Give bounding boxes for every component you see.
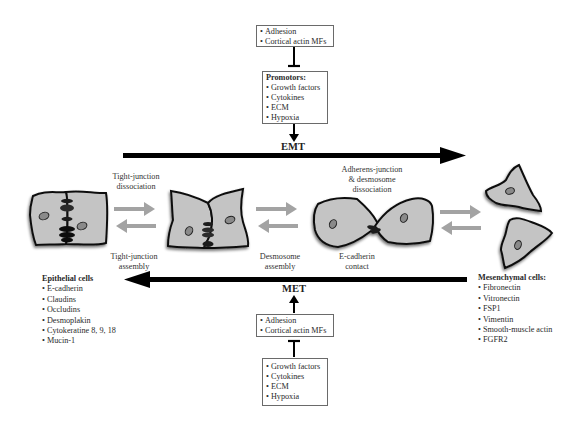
e-cadherin-contact-label: E-cadherin contact xyxy=(327,252,387,272)
bottom-adhesion-box: Adhesion Cortical actin MFs xyxy=(256,314,334,337)
epithelial-marker: Desmoplakin xyxy=(42,316,116,326)
epithelial-marker: Mucin-1 xyxy=(42,336,116,346)
mesenchymal-marker: Vitronectin xyxy=(478,294,552,304)
bottom-adhesion-item: Cortical actin MFs xyxy=(260,326,330,336)
top-inhibitor-box: Adhesion Cortical actin MFs xyxy=(256,25,334,47)
promotor-item: Cytokines xyxy=(266,93,324,103)
bottom-factor-item: Cytokines xyxy=(266,372,324,382)
adherens-junction-dissociation-label: Adherens-junction & desmosome dissociati… xyxy=(332,165,412,195)
arrow-up-icon xyxy=(289,295,299,313)
met-label: MET xyxy=(282,283,306,294)
mesenchymal-cells xyxy=(486,165,552,268)
mesenchymal-marker: Smooth-muscle actin xyxy=(478,325,552,335)
mesenchymal-marker: FSP1 xyxy=(478,304,552,314)
promotors-title: Promotors: xyxy=(266,73,324,83)
mesenchymal-markers-list: Mesenchymal cells: Fibronectin Vitronect… xyxy=(478,273,552,346)
bottom-factor-item: Growth factors xyxy=(266,362,324,372)
tight-junction-assembly-label: Tight-junction assembly xyxy=(104,252,164,272)
epithelial-marker: Occludins xyxy=(42,305,116,315)
epithelial-marker: E-cadherin xyxy=(42,284,116,294)
epithelial-marker: Cytokeratine 8, 9, 18 xyxy=(42,326,116,336)
inhibition-bar-icon-top xyxy=(288,47,300,66)
epithelial-title: Epithelial cells xyxy=(42,274,116,284)
epithelial-marker: Claudins xyxy=(42,295,116,305)
transition-arrows-2 xyxy=(256,202,298,233)
inhibition-bar-icon-bottom xyxy=(288,341,300,357)
promotor-item: Hypoxia xyxy=(266,113,324,123)
promotors-box: Promotors: Growth factors Cytokines ECM … xyxy=(262,71,328,124)
bottom-adhesion-item: Adhesion xyxy=(260,316,330,326)
mesenchymal-marker: Fibronectin xyxy=(478,283,552,293)
promotor-item: Growth factors xyxy=(266,83,324,93)
mesenchymal-marker: Vimentin xyxy=(478,315,552,325)
top-inhibitor-item: Adhesion xyxy=(260,27,330,37)
transition-arrows-3 xyxy=(440,205,481,235)
epithelial-cell-pair xyxy=(30,191,107,245)
tight-junction-dissociation-label: Tight-junction dissociation xyxy=(106,172,166,192)
emt-label: EMT xyxy=(281,141,305,152)
top-inhibitor-item: Cortical actin MFs xyxy=(260,37,330,47)
cadherin-contact-cell-pair xyxy=(314,198,433,247)
epithelial-markers-list: Epithelial cells E-cadherin Claudins Occ… xyxy=(42,274,116,347)
bottom-factor-item: Hypoxia xyxy=(266,392,324,402)
mesenchymal-marker: FGFR2 xyxy=(478,335,552,345)
partially-separated-cell-pair xyxy=(168,189,248,248)
arrow-down-icon xyxy=(289,124,299,142)
desmosome-assembly-label: Desmosome assembly xyxy=(250,252,310,272)
transition-arrows-1 xyxy=(114,202,156,233)
bottom-factors-box: Growth factors Cytokines ECM Hypoxia xyxy=(262,358,328,406)
promotor-item: ECM xyxy=(266,103,324,113)
bottom-factor-item: ECM xyxy=(266,382,324,392)
mesenchymal-title: Mesenchymal cells: xyxy=(478,273,552,283)
